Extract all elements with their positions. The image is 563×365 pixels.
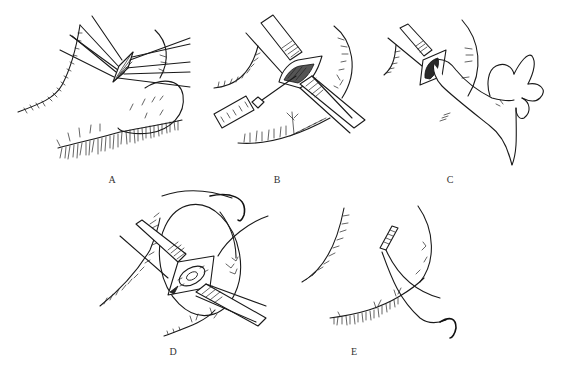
panel-e-drawing <box>302 206 456 338</box>
panel-c-drawing <box>384 20 543 165</box>
panel-b-label: B <box>274 174 281 185</box>
panel-d-label: D <box>169 346 176 357</box>
figure-drawing <box>0 0 563 365</box>
panel-c-label: C <box>447 174 454 185</box>
panel-d-drawing <box>100 191 268 336</box>
panel-a-label: A <box>108 174 115 185</box>
panel-a-drawing <box>18 16 190 159</box>
panel-e-label: E <box>351 346 357 357</box>
panel-b-drawing <box>214 15 365 143</box>
surgical-figure: A B C D E <box>0 0 563 365</box>
